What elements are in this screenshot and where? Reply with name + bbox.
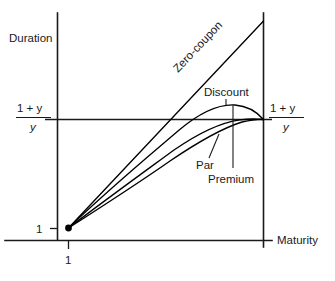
x-tick-label-1: 1: [65, 254, 71, 266]
leader-line-par: [209, 134, 219, 158]
ticks-group: [50, 229, 69, 250]
y-axis-fraction-label-left: 1 + y y: [16, 102, 51, 133]
annotation-par: Par: [196, 159, 214, 171]
curves-group: [65, 21, 263, 231]
fraction-left-denominator: y: [29, 121, 37, 133]
y-axis-label: Duration: [9, 32, 52, 44]
annotation-zero-coupon: Zero-coupon: [171, 19, 225, 75]
chart-canvas: Duration Maturity 1 1 1 + y y 1 + y y Ze…: [0, 0, 335, 281]
x-axis-label: Maturity: [277, 234, 318, 246]
axes-group: [5, 13, 272, 241]
y-axis-fraction-label-right: 1 + y y: [269, 102, 304, 133]
y-tick-label-1: 1: [36, 223, 42, 235]
fraction-right-denominator: y: [282, 121, 290, 133]
origin-point-marker: [65, 225, 72, 232]
fraction-right-numerator: 1 + y: [270, 102, 296, 114]
duration-vs-maturity-chart: Duration Maturity 1 1 1 + y y 1 + y y Ze…: [0, 0, 335, 281]
annotation-discount: Discount: [204, 86, 250, 98]
fraction-left-numerator: 1 + y: [17, 102, 43, 114]
annotation-premium: Premium: [208, 173, 254, 185]
